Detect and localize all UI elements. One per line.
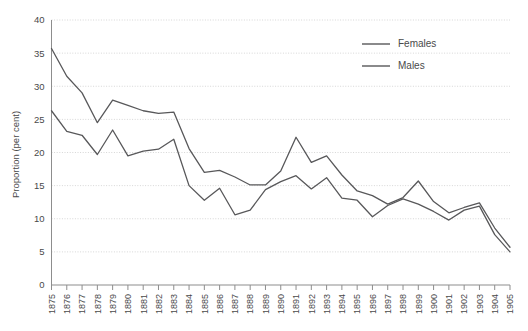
gridlines: [52, 20, 511, 252]
chart-container: 0510152025303540 18751876187718781879188…: [0, 0, 528, 331]
x-axis-tick-label: 1894: [337, 294, 347, 314]
x-axis-tick-label: 1893: [322, 294, 332, 314]
y-axis-tick-label: 20: [34, 147, 45, 158]
x-axis-tick-label: 1880: [123, 294, 133, 314]
y-axis-tick-label: 25: [34, 114, 45, 125]
x-axis-tick-label: 1884: [184, 294, 194, 314]
series-line-males: [52, 111, 511, 252]
y-axis-tick-label: 40: [34, 14, 45, 25]
x-axis-tick-label: 1878: [93, 294, 103, 314]
y-axis-title: Proportion (per cent): [10, 111, 21, 198]
x-axis-tick-label: 1900: [429, 294, 439, 314]
x-axis-tick-label: 1875: [47, 294, 57, 314]
x-axis-tick-label: 1889: [261, 294, 271, 314]
legend-label-males: Males: [398, 60, 425, 71]
x-axis-tick-label: 1895: [352, 294, 362, 314]
x-axis-tick-label: 1887: [230, 294, 240, 314]
line-chart: 0510152025303540 18751876187718781879188…: [0, 0, 528, 331]
x-axis-tick-label: 1890: [276, 294, 286, 314]
x-axis-tick-labels: 1875187618771878187918801881188218831884…: [47, 294, 516, 314]
series-line-females: [52, 48, 511, 247]
x-axis-tick-label: 1881: [139, 294, 149, 314]
x-axis-tick-label: 1896: [368, 294, 378, 314]
y-axis-tick-label: 0: [39, 279, 44, 290]
y-axis-tick-label: 5: [39, 246, 44, 257]
x-axis-tick-label: 1903: [475, 294, 485, 314]
x-axis-tick-label: 1899: [414, 294, 424, 314]
y-axis-tick-label: 15: [34, 180, 45, 191]
x-axis-tick-label: 1892: [307, 294, 317, 314]
x-axis-tick-label: 1883: [169, 294, 179, 314]
x-axis-tick-marks: [52, 285, 511, 290]
y-axis-tick-label: 10: [34, 213, 45, 224]
x-axis-tick-label: 1885: [200, 294, 210, 314]
y-axis-tick-label: 35: [34, 48, 45, 59]
x-axis-tick-label: 1888: [245, 294, 255, 314]
x-axis-tick-label: 1904: [490, 294, 500, 314]
legend-label-females: Females: [398, 38, 436, 49]
x-axis-tick-label: 1876: [62, 294, 72, 314]
x-axis-tick-label: 1898: [398, 294, 408, 314]
x-axis-tick-label: 1882: [154, 294, 164, 314]
x-axis-tick-label: 1886: [215, 294, 225, 314]
x-axis-tick-label: 1879: [108, 294, 118, 314]
x-axis-tick-label: 1902: [459, 294, 469, 314]
data-series: [52, 48, 511, 251]
x-axis-tick-label: 1901: [444, 294, 454, 314]
x-axis-tick-label: 1897: [383, 294, 393, 314]
x-axis-tick-label: 1891: [291, 294, 301, 314]
y-axis-tick-label: 30: [34, 81, 45, 92]
x-axis-tick-label: 1877: [77, 294, 87, 314]
x-axis-tick-label: 1905: [505, 294, 515, 314]
y-axis-tick-labels: 0510152025303540: [34, 14, 45, 290]
chart-legend: FemalesMales: [362, 38, 436, 71]
